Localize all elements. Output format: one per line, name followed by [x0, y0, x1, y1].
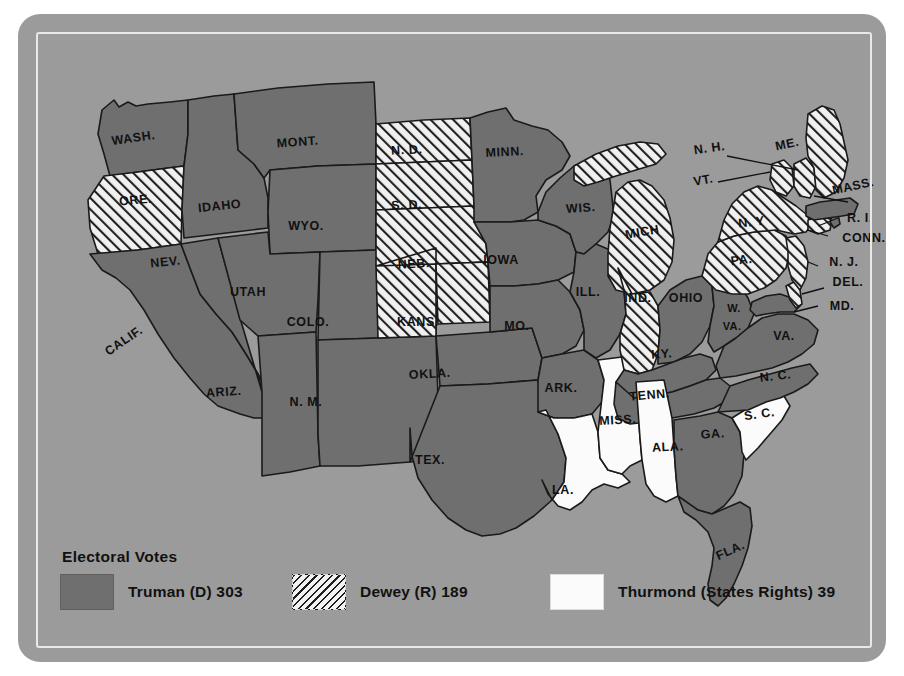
state-ARIZ[interactable] [258, 332, 320, 476]
state-WASH[interactable] [98, 100, 188, 176]
legend-label-thurmond: Thurmond (States Rights) 39 [618, 583, 835, 601]
label-CALIF: CALIF. [102, 323, 145, 358]
state-WYO[interactable] [268, 164, 376, 254]
label-MD: MD. [830, 299, 855, 313]
state-ARK[interactable] [538, 350, 604, 418]
leader-line-del [802, 288, 824, 294]
label-DEL: DEL. [833, 275, 864, 289]
state-MONT[interactable] [234, 82, 376, 178]
state-ORE[interactable] [88, 166, 184, 254]
state-OHIO[interactable] [658, 276, 714, 364]
state-NJ[interactable] [786, 236, 808, 290]
state-KANS-b[interactable] [436, 262, 490, 324]
legend-row: Truman (D) 303 Dewey (R) 189 Thurmond (S… [60, 574, 850, 610]
legend-label-truman: Truman (D) 303 [128, 583, 243, 601]
label-VT: VT. [692, 171, 714, 188]
label-NH: N. H. [693, 139, 726, 157]
state-MICH-up[interactable] [574, 142, 666, 186]
leader-line-nj [808, 262, 818, 266]
label-NJ: N. J. [829, 255, 858, 269]
state-MICH[interactable] [608, 180, 674, 294]
state-OKLA[interactable] [436, 328, 542, 386]
leader-line-vt [718, 172, 770, 182]
legend-item-truman[interactable]: Truman (D) 303 [60, 574, 292, 610]
legend-item-thurmond[interactable]: Thurmond (States Rights) 39 [550, 574, 835, 610]
state-ND[interactable] [376, 118, 472, 164]
legend-item-dewey[interactable]: Dewey (R) 189 [292, 574, 550, 610]
state-IOWA[interactable] [474, 220, 576, 286]
legend-title: Electoral Votes [62, 548, 850, 566]
state-GA[interactable] [674, 412, 744, 514]
electoral-map-figure: WASH. ORE. CALIF. IDAHO NEV. MONT. WYO. … [0, 0, 904, 676]
legend-swatch-truman [60, 574, 114, 610]
label-ME: ME. [774, 135, 800, 154]
state-PA[interactable] [702, 230, 790, 294]
legend-swatch-thurmond [550, 574, 604, 610]
label-CONN: CONN. [842, 231, 885, 245]
state-SD[interactable] [376, 160, 474, 210]
legend-label-dewey: Dewey (R) 189 [360, 583, 468, 601]
legend-swatch-dewey [292, 574, 346, 610]
state-MASS[interactable] [806, 198, 858, 220]
legend: Electoral Votes Truman (D) 303 Dewey (R)… [60, 548, 850, 632]
